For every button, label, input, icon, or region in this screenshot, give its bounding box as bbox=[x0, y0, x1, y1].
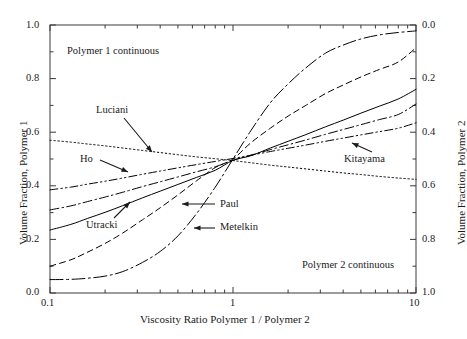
x-axis-title: Viscosity Ratio Polymer 1 / Polymer 2 bbox=[140, 313, 310, 325]
y2tick-label-0-2: 0.2 bbox=[422, 72, 435, 83]
xtick-label-0-1: 0.1 bbox=[41, 297, 54, 308]
y2tick-label-0-6: 0.6 bbox=[422, 179, 435, 190]
ytick-label-1-0: 1.0 bbox=[26, 19, 39, 30]
series-label-kitayama: Kitayama bbox=[344, 153, 385, 164]
y2tick-label-1-0: 1.0 bbox=[422, 286, 435, 297]
ytick-label-0-0: 0.0 bbox=[26, 286, 39, 297]
y-axis-title: Volume Fraction, Polymer 1 bbox=[17, 121, 29, 245]
y2tick-label-0-4: 0.4 bbox=[422, 126, 435, 137]
series-label-luciani: Luciani bbox=[96, 104, 128, 115]
xtick-label-10: 10 bbox=[409, 297, 420, 308]
y2-axis-title: Volume Fraction, Polymer 2 bbox=[455, 121, 467, 245]
xtick-label-1: 1 bbox=[230, 297, 235, 308]
y2tick-label-0-0: 0.0 bbox=[422, 19, 435, 30]
region-label-polymer1-continuous: Polymer 1 continuous bbox=[67, 45, 159, 56]
ytick-label-0-8: 0.8 bbox=[26, 72, 39, 83]
region-label-polymer2-continuous: Polymer 2 continuous bbox=[302, 259, 394, 270]
series-label-paul: Paul bbox=[220, 198, 239, 209]
series-label-utracki: Utracki bbox=[86, 219, 118, 230]
series-label-metelkin: Metelkin bbox=[220, 221, 258, 232]
y2tick-label-0-8: 0.8 bbox=[422, 233, 435, 244]
series-label-ho: Ho bbox=[80, 153, 93, 164]
